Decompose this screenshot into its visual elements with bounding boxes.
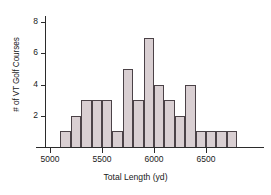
y-axis-tick-label: 6 [22, 47, 38, 57]
histogram-bar [216, 131, 226, 147]
histogram-bar [227, 131, 237, 147]
histogram-bar [144, 38, 154, 147]
histogram-bar [71, 116, 81, 147]
y-axis-tick [41, 116, 46, 117]
x-axis-tick-label: 5000 [30, 154, 70, 164]
histogram-bar [185, 85, 195, 147]
histogram-bar [92, 100, 102, 147]
x-axis-tick [206, 148, 207, 153]
histogram-bar [133, 100, 143, 147]
histogram-bar [112, 131, 122, 147]
histogram-bar [175, 116, 185, 147]
histogram-bar [60, 131, 70, 147]
x-axis-tick-label: 5500 [82, 154, 122, 164]
y-axis-tick-label: 2 [22, 110, 38, 120]
histogram-bar [164, 100, 174, 147]
histogram-figure: # of VT Golf Courses Total Length (yd) 2… [0, 0, 271, 195]
x-axis-tick [102, 148, 103, 153]
plot-area [0, 0, 271, 195]
histogram-bar [196, 131, 206, 147]
x-axis-title: Total Length (yd) [0, 172, 271, 182]
histogram-bar [123, 69, 133, 147]
histogram-bar [102, 100, 112, 147]
y-axis-tick-label: 4 [22, 79, 38, 89]
y-axis-tick-label: 8 [22, 16, 38, 26]
x-axis-tick-label: 6000 [134, 154, 174, 164]
y-axis-tick [41, 53, 46, 54]
histogram-bar [81, 100, 91, 147]
histogram-bar [206, 131, 216, 147]
x-axis-tick-label: 6500 [186, 154, 226, 164]
y-axis-title: # of VT Golf Courses [12, 10, 21, 140]
y-axis-line [45, 16, 46, 148]
histogram-bar [154, 85, 164, 147]
y-axis-tick [41, 22, 46, 23]
x-axis-tick [50, 148, 51, 153]
y-axis-tick [41, 85, 46, 86]
x-axis-line [36, 147, 264, 148]
x-axis-tick [154, 148, 155, 153]
